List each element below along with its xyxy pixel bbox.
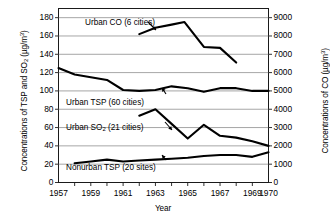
- right-tick-label: 6000: [274, 67, 314, 77]
- x-tick-label: 1961: [106, 188, 140, 198]
- left-tick-label: 60: [18, 122, 54, 132]
- series-label-urban-co: Urban CO (6 cities): [85, 18, 155, 27]
- x-tick-label: 1965: [171, 188, 205, 198]
- right-tick-label: 2000: [274, 140, 314, 150]
- left-tick-label: 180: [18, 12, 54, 22]
- x-tick-label: 1963: [138, 188, 172, 198]
- left-tick-label: 80: [18, 104, 54, 114]
- right-tick-label: 1000: [274, 159, 314, 169]
- series-label-nonurban-tsp: Nonurban TSP (20 sites): [66, 163, 156, 172]
- right-tick-label: 5000: [274, 85, 314, 95]
- right-tick-label: 8000: [274, 30, 314, 40]
- series-label-urban-so2: Urban SO2 (21 cities): [66, 123, 143, 132]
- right-tick-label: 7000: [274, 49, 314, 59]
- left-tick-label: 100: [18, 85, 54, 95]
- left-tick-label: 40: [18, 140, 54, 150]
- left-tick-label: 120: [18, 67, 54, 77]
- right-tick-label: 3000: [274, 122, 314, 132]
- series-label-urban-tsp: Urban TSP (60 cities): [66, 98, 144, 107]
- right-tick-label: 0: [274, 177, 314, 187]
- left-tick-label: 20: [18, 159, 54, 169]
- right-tick-label: 9000: [274, 12, 314, 22]
- left-tick-label: 140: [18, 49, 54, 59]
- x-tick-label: 1957: [42, 188, 76, 198]
- right-tick-label: 4000: [274, 104, 314, 114]
- x-axis-ticks: [75, 183, 253, 187]
- left-axis-ticks: [55, 18, 59, 183]
- left-tick-label: 160: [18, 30, 54, 40]
- right-axis-ticks: [269, 18, 273, 183]
- left-tick-label: 0: [18, 177, 54, 187]
- x-tick-label: 1970: [252, 188, 286, 198]
- right-axis-title: Concentrations of CO (µg/m3): [320, 15, 330, 187]
- x-tick-label: 1967: [203, 188, 237, 198]
- x-axis-title: Year: [58, 204, 268, 213]
- x-tick-label: 1959: [74, 188, 108, 198]
